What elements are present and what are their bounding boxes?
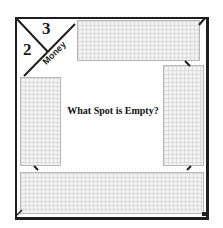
question-text: What Spot is Empty? bbox=[57, 105, 169, 116]
tick-left-lower bbox=[34, 166, 38, 170]
corner-number-top: 3 bbox=[42, 19, 51, 39]
tick-bottom-left bbox=[17, 210, 22, 215]
tick-top-right bbox=[199, 18, 205, 25]
tick-right-lower bbox=[187, 166, 191, 170]
tick-right-upper bbox=[185, 61, 190, 66]
corner-number-left: 2 bbox=[23, 40, 32, 60]
tick-bottom-right bbox=[202, 212, 206, 216]
